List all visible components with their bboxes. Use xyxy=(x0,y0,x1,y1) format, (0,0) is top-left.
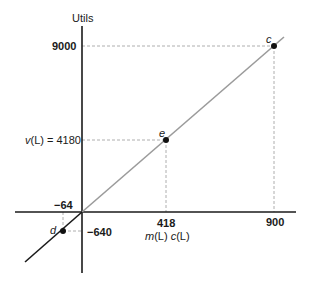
x-tick-900: 900 xyxy=(266,216,284,228)
x-axis-title: m(L) c(L) xyxy=(145,230,190,242)
x-axis-c-rest: (L) xyxy=(176,230,189,242)
x-tick-418: 418 xyxy=(157,217,175,229)
x-axis-m: m xyxy=(145,230,154,242)
x-tick-neg64: −64 xyxy=(54,199,73,211)
utility-line-positive xyxy=(82,37,284,212)
y-tick-4180-rest: (L) = 4180 xyxy=(31,134,81,146)
x-axis-m-rest: (L) xyxy=(154,230,171,242)
utility-line-negative xyxy=(25,212,82,262)
y-axis-title: Utils xyxy=(72,12,93,24)
point-e-label: e xyxy=(159,127,165,139)
y-tick-9000: 9000 xyxy=(52,40,76,52)
y-tick-4180: v(L) = 4180 xyxy=(25,134,81,146)
point-d-label: d xyxy=(50,224,56,236)
point-d xyxy=(60,228,66,234)
point-c-label: c xyxy=(266,33,272,45)
y-tick-neg640: −640 xyxy=(87,226,112,238)
